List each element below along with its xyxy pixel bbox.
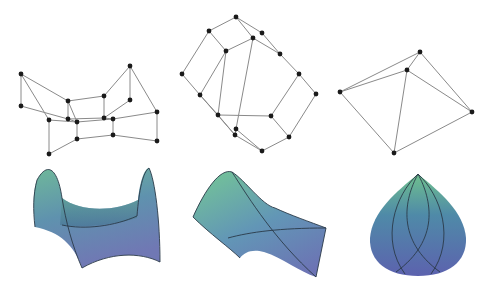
graph-edge bbox=[262, 33, 280, 54]
graph-edge bbox=[218, 115, 235, 135]
graph-node bbox=[75, 120, 80, 125]
graph-node bbox=[278, 52, 283, 57]
graph-edge bbox=[104, 66, 130, 96]
graph-node bbox=[111, 133, 116, 138]
graph-node bbox=[224, 49, 229, 54]
graph-node bbox=[216, 113, 221, 118]
graph-node bbox=[269, 114, 274, 119]
graph-node bbox=[102, 94, 107, 99]
graph-node bbox=[198, 93, 203, 98]
graph-node bbox=[405, 68, 410, 73]
graph-node bbox=[314, 92, 319, 97]
graph-edge bbox=[394, 70, 407, 153]
graph-edge bbox=[236, 17, 253, 38]
diagram-canvas bbox=[0, 0, 492, 288]
graph-node bbox=[47, 152, 52, 157]
graph-edge bbox=[420, 52, 472, 112]
graph-edge bbox=[21, 106, 68, 119]
graph-node bbox=[75, 137, 80, 142]
graph-node bbox=[155, 139, 160, 144]
graph-node bbox=[287, 135, 292, 140]
graph-edge bbox=[209, 17, 236, 31]
graph-node bbox=[47, 118, 52, 123]
graph-edge bbox=[218, 115, 271, 116]
graph-edge bbox=[253, 38, 280, 54]
graph-node bbox=[180, 72, 185, 77]
graph-edge bbox=[49, 139, 77, 154]
graph-edge bbox=[77, 119, 113, 122]
graph-edge bbox=[236, 17, 262, 33]
graph-node bbox=[260, 149, 265, 154]
graph-node bbox=[111, 117, 116, 122]
graph-edge bbox=[218, 51, 226, 115]
graph-node bbox=[19, 104, 24, 109]
graph-edge bbox=[104, 100, 130, 118]
graph-edge bbox=[113, 112, 157, 119]
graph-node bbox=[233, 133, 238, 138]
graph-left bbox=[19, 64, 160, 157]
graph-node bbox=[470, 110, 475, 115]
graph-edge bbox=[68, 96, 104, 101]
graph-node bbox=[19, 72, 24, 77]
graph-middle bbox=[180, 15, 319, 154]
graph-node bbox=[155, 110, 160, 115]
graph-node bbox=[418, 50, 423, 55]
graph-node bbox=[66, 99, 71, 104]
graph-edge bbox=[340, 70, 407, 92]
graph-edge bbox=[340, 92, 394, 153]
graph-edge bbox=[182, 31, 209, 74]
graph-edge bbox=[236, 129, 262, 151]
drop-surface bbox=[370, 174, 466, 276]
graph-edge bbox=[113, 135, 157, 141]
graph-node bbox=[128, 98, 133, 103]
graph-edge bbox=[182, 74, 200, 95]
graph-right bbox=[338, 50, 475, 156]
graph-edge bbox=[209, 31, 226, 51]
graph-node bbox=[102, 116, 107, 121]
graph-node bbox=[234, 15, 239, 20]
graph-node bbox=[392, 151, 397, 156]
graph-node bbox=[297, 72, 302, 77]
graph-edge bbox=[226, 38, 253, 51]
graph-edge bbox=[262, 137, 289, 151]
graph-node bbox=[260, 31, 265, 36]
graph-node bbox=[234, 127, 239, 132]
saddle-surface bbox=[34, 168, 160, 268]
graph-node bbox=[338, 90, 343, 95]
graph-edge bbox=[235, 135, 262, 151]
twisted-surface bbox=[193, 172, 326, 277]
graph-edge bbox=[21, 74, 68, 101]
graph-node bbox=[251, 36, 256, 41]
graph-edge bbox=[394, 112, 472, 153]
graph-edge bbox=[77, 135, 113, 139]
graph-edge bbox=[271, 116, 289, 137]
graph-node bbox=[207, 29, 212, 34]
graph-node bbox=[66, 117, 71, 122]
graph-node bbox=[128, 64, 133, 69]
graph-edge bbox=[407, 70, 472, 112]
graph-edge bbox=[200, 51, 226, 95]
graph-edge bbox=[130, 66, 157, 112]
graph-edge bbox=[271, 74, 299, 116]
graph-edge bbox=[299, 74, 316, 94]
graph-edge bbox=[280, 54, 299, 74]
graph-edge bbox=[68, 118, 104, 119]
graph-edge bbox=[289, 94, 316, 137]
